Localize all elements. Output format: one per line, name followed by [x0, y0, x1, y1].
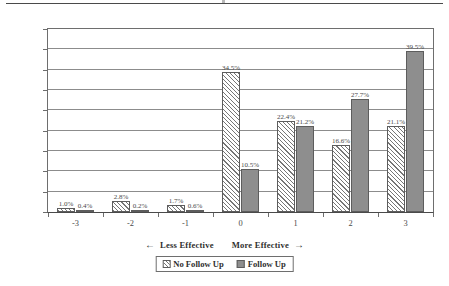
bar-group: 34.5%10.5% [222, 29, 259, 212]
x-axis-tick [378, 213, 379, 217]
bar-follow-up[interactable]: 21.2% [296, 126, 314, 212]
bar-group: 1.7%0.6% [167, 29, 204, 212]
bar-no-follow-up[interactable]: 22.4% [277, 121, 295, 212]
bar-value-label: 27.7% [351, 92, 369, 100]
x-axis-tick-label: -3 [56, 219, 96, 228]
bar-follow-up[interactable]: 0.2% [131, 210, 149, 212]
bar-value-label: 21.2% [296, 119, 314, 127]
x-axis-tick-label: -2 [111, 219, 151, 228]
x-axis-tick-label: 0 [221, 219, 261, 228]
legend-label-follow-up: Follow Up [248, 259, 286, 269]
bar-no-follow-up[interactable]: 2.8% [112, 201, 130, 212]
bar-value-label: 0.6% [188, 203, 203, 211]
x-axis-tick [48, 213, 49, 217]
x-axis-tick-label: -1 [166, 219, 206, 228]
bar-no-follow-up[interactable]: 16.6% [332, 145, 350, 213]
bar-group: 16.6%27.7% [332, 29, 369, 212]
legend-item-follow-up[interactable]: Follow Up [237, 259, 286, 269]
top-center-mark [222, 0, 225, 3]
bar-follow-up[interactable]: 10.5% [241, 169, 259, 212]
bar-group: 22.4%21.2% [277, 29, 314, 212]
x-axis-tick [433, 213, 434, 217]
x-axis-tick [268, 213, 269, 217]
x-axis-tick [213, 213, 214, 217]
arrow-left-icon: ← [145, 241, 155, 249]
bar-no-follow-up[interactable]: 1.0% [57, 208, 75, 212]
bar-follow-up[interactable]: 39.5% [406, 51, 424, 212]
caption-less-effective: Less Effective [160, 240, 214, 250]
chart-figure: 0.0%5.0%10.0%15.0%20.0%25.0%30.0%35.0%40… [0, 0, 449, 286]
bar-value-label: 39.5% [406, 44, 424, 52]
caption-more-effective: More Effective [232, 240, 289, 250]
bar-value-label: 2.8% [114, 194, 129, 202]
legend-swatch-solid-icon [237, 260, 245, 268]
top-divider-rule [6, 3, 443, 4]
bar-no-follow-up[interactable]: 34.5% [222, 72, 240, 212]
bar-follow-up[interactable]: 27.7% [351, 99, 369, 212]
bar-value-label: 0.2% [133, 203, 148, 211]
bar-value-label: 16.6% [332, 138, 350, 146]
bar-no-follow-up[interactable]: 21.1% [387, 126, 405, 212]
bar-value-label: 22.4% [277, 114, 295, 122]
bar-follow-up[interactable]: 0.6% [186, 210, 204, 212]
x-axis-tick-label: 2 [331, 219, 371, 228]
bar-value-label: 1.7% [169, 198, 184, 206]
legend-label-no-follow-up: No Follow Up [173, 259, 224, 269]
legend-swatch-hatched-icon [162, 260, 170, 268]
bar-group: 2.8%0.2% [112, 29, 149, 212]
bar-no-follow-up[interactable]: 1.7% [167, 205, 185, 212]
chart-legend: No Follow Up Follow Up [155, 256, 294, 272]
bar-value-label: 34.5% [222, 65, 240, 73]
bar-group: 1.0%0.4% [57, 29, 94, 212]
bar-value-label: 10.5% [241, 162, 259, 170]
x-axis-tick [103, 213, 104, 217]
bar-value-label: 1.0% [59, 201, 74, 209]
x-axis-tick [158, 213, 159, 217]
x-axis-tick-label: 3 [386, 219, 426, 228]
bar-follow-up[interactable]: 0.4% [76, 210, 94, 212]
arrow-right-icon: → [294, 241, 304, 249]
x-axis-tick-label: 1 [276, 219, 316, 228]
bar-groups: 1.0%0.4%2.8%0.2%1.7%0.6%34.5%10.5%22.4%2… [48, 29, 433, 212]
x-axis-tick [323, 213, 324, 217]
bar-value-label: 0.4% [78, 203, 93, 211]
legend-item-no-follow-up[interactable]: No Follow Up [162, 259, 224, 269]
bar-group: 21.1%39.5% [387, 29, 424, 212]
axis-caption: ← Less Effective More Effective → [0, 240, 449, 250]
bar-value-label: 21.1% [387, 119, 405, 127]
